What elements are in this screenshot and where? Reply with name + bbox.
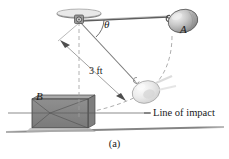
label-block-b: B xyxy=(36,91,43,102)
label-angle-theta: θ xyxy=(104,19,109,30)
ball-a-lowest-icon xyxy=(129,76,176,107)
dashed-swing-arc-icon xyxy=(94,36,172,111)
label-cord-length: 3 ft xyxy=(89,66,103,76)
label-ball-a: A xyxy=(180,24,187,35)
label-line-of-impact: Line of impact xyxy=(153,108,215,119)
physics-figure: A B θ 3 ft Line of impact (a) xyxy=(0,0,229,159)
ceiling-pivot-icon xyxy=(57,9,101,24)
angle-theta-arc xyxy=(96,20,104,37)
figure-caption: (a) xyxy=(0,139,229,150)
figure-illustration xyxy=(0,0,229,159)
